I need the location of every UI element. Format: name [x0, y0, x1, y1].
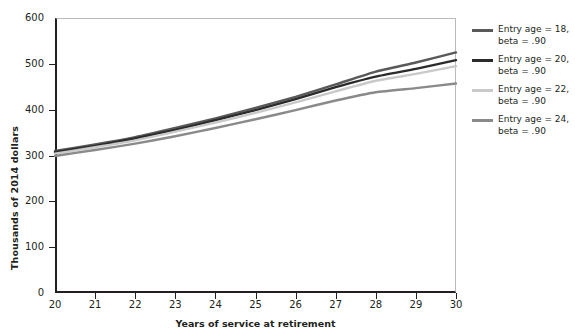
legend-item: Entry age = 18, beta = .90	[472, 24, 575, 47]
x-tick-mark	[416, 293, 417, 299]
x-tick-label: 20	[40, 300, 70, 310]
legend-item: Entry age = 22, beta = .90	[472, 84, 575, 107]
legend-item: Entry age = 20, beta = .90	[472, 54, 575, 77]
y-tick-label: 500	[8, 59, 44, 69]
y-tick-label: 100	[8, 242, 44, 252]
x-tick-mark	[215, 293, 216, 299]
y-tick-label: 400	[8, 105, 44, 115]
y-tick-label: 600	[8, 13, 44, 23]
y-tick-label: 0	[8, 288, 44, 298]
x-tick-label: 30	[441, 300, 471, 310]
x-tick-label: 27	[321, 300, 351, 310]
legend-label: Entry age = 24, beta = .90	[498, 114, 569, 137]
legend: Entry age = 18, beta = .90Entry age = 20…	[472, 24, 575, 144]
x-tick-label: 26	[281, 300, 311, 310]
legend-label: Entry age = 22, beta = .90	[498, 84, 569, 107]
series-line	[55, 60, 456, 152]
legend-label: Entry age = 18, beta = .90	[498, 24, 569, 47]
x-tick-label: 24	[200, 300, 230, 310]
x-tick-label: 25	[241, 300, 271, 310]
x-tick-mark	[376, 293, 377, 299]
x-tick-mark	[95, 293, 96, 299]
x-tick-label: 28	[361, 300, 391, 310]
x-tick-mark	[296, 293, 297, 299]
x-tick-mark	[456, 293, 457, 299]
x-tick-mark	[256, 293, 257, 299]
x-tick-label: 22	[120, 300, 150, 310]
y-tick-label: 300	[8, 151, 44, 161]
legend-swatch-icon	[472, 59, 493, 62]
series-line	[55, 52, 456, 151]
legend-item: Entry age = 24, beta = .90	[472, 114, 575, 137]
plot-lines	[55, 18, 456, 293]
x-axis-title: Years of service at retirement	[55, 318, 456, 329]
x-tick-label: 21	[80, 300, 110, 310]
x-tick-mark	[175, 293, 176, 299]
x-tick-label: 29	[401, 300, 431, 310]
legend-swatch-icon	[472, 119, 493, 122]
x-tick-mark	[135, 293, 136, 299]
x-tick-label: 23	[160, 300, 190, 310]
legend-swatch-icon	[472, 89, 493, 92]
y-tick-label: 200	[8, 196, 44, 206]
legend-swatch-icon	[472, 29, 493, 32]
legend-label: Entry age = 20, beta = .90	[498, 54, 569, 77]
line-chart: Thousands of 2014 dollars 01002003004005…	[0, 0, 575, 336]
x-tick-mark	[336, 293, 337, 299]
